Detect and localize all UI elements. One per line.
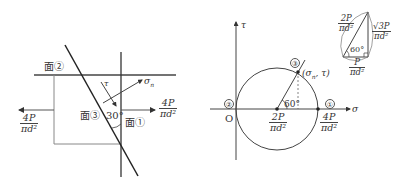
left-stress-fraction: 4Pπd² <box>20 113 38 134</box>
triangle-angle-label: 60° <box>350 45 364 55</box>
point1-label: ① <box>325 99 335 109</box>
face2-label: 面② <box>44 62 64 72</box>
mohr-angle-label: 60° <box>284 99 300 109</box>
point3-coords: (σn, τ) <box>302 68 330 82</box>
right-point-fraction: 4Pπd² <box>320 112 338 133</box>
hypotenuse-fraction: 2Pπd² <box>338 14 354 33</box>
sigma-n-label: σn <box>144 76 154 90</box>
vertical-fraction: √3Pπd² <box>372 22 391 41</box>
angle-30-label: 30° <box>106 111 124 121</box>
point3-label: ③ <box>290 58 300 68</box>
origin-label: O <box>225 114 233 124</box>
sigma-axis-label: σ <box>352 104 358 114</box>
point2-label: ② <box>224 99 234 109</box>
tau-label: τ <box>104 79 108 89</box>
base-fraction: Pπd² <box>349 58 365 77</box>
center-fraction: 2Pπd² <box>269 112 287 133</box>
face1-label: 面① <box>125 118 145 128</box>
right-stress-fraction: 4Pπd² <box>159 98 177 119</box>
mohr-circle-plot <box>210 22 350 160</box>
face3-label: 面③ <box>80 111 100 121</box>
tau-axis-label: τ <box>241 20 246 30</box>
